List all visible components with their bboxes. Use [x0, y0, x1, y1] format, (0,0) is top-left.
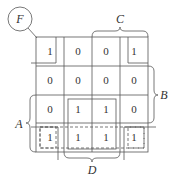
label-a: A [14, 117, 23, 131]
function-name: F [15, 12, 24, 26]
cell-r3c1: 1 [75, 131, 81, 143]
group-corner-bottom-right [124, 127, 156, 160]
label-d: D [87, 163, 97, 177]
cell-r2c0: 0 [47, 103, 53, 115]
function-label: F [8, 7, 37, 38]
cell-r1c2: 0 [103, 74, 109, 86]
cell-r0c3: 1 [131, 45, 137, 57]
cell-r3c0: 1 [47, 131, 53, 143]
cell-r2c2: 1 [103, 103, 109, 115]
karnaugh-map: F 1 0 0 1 0 0 0 0 0 1 1 0 1 1 1 1 [0, 0, 174, 189]
label-b: B [160, 88, 168, 102]
cell-r3c3: 1 [131, 131, 137, 143]
group-corner-bottom-left [31, 127, 58, 160]
cell-r0c0: 1 [47, 45, 53, 57]
cell-r2c1: 1 [75, 103, 81, 115]
cell-r1c3: 0 [131, 74, 137, 86]
label-c: C [116, 12, 125, 26]
cell-r1c0: 0 [47, 74, 53, 86]
brace-b [148, 66, 158, 123]
brace-d [64, 152, 120, 162]
brace-c [92, 27, 148, 37]
brace-a [26, 95, 36, 152]
cell-r0c1: 0 [75, 45, 81, 57]
cell-r0c2: 0 [103, 45, 109, 57]
cell-r1c1: 0 [75, 74, 81, 86]
cell-r3c2: 1 [103, 131, 109, 143]
cell-r2c3: 0 [131, 103, 137, 115]
